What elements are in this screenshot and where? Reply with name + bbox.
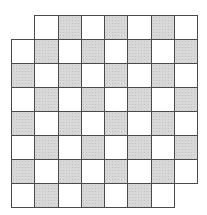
shaded-square	[104, 159, 128, 184]
white-square	[11, 39, 35, 64]
white-square	[58, 39, 82, 64]
shaded-square	[81, 39, 105, 64]
white-square	[104, 39, 128, 64]
white-square	[127, 63, 152, 88]
white-square	[174, 15, 198, 40]
white-square	[127, 111, 152, 136]
shaded-square	[104, 15, 128, 40]
shaded-square	[81, 87, 105, 112]
shaded-square	[174, 87, 198, 112]
shaded-square	[34, 183, 59, 208]
white-square	[151, 183, 175, 208]
shaded-square	[151, 159, 175, 184]
shaded-square	[127, 183, 152, 208]
white-square	[58, 183, 82, 208]
white-square	[34, 159, 59, 184]
white-square	[11, 135, 35, 160]
white-square	[104, 135, 128, 160]
white-square	[174, 63, 198, 88]
white-square	[127, 15, 152, 40]
white-square	[81, 111, 105, 136]
white-square	[81, 15, 105, 40]
shaded-square	[34, 39, 59, 64]
white-square	[174, 159, 198, 184]
white-square	[127, 159, 152, 184]
shaded-square	[151, 63, 175, 88]
shaded-square	[58, 15, 82, 40]
shaded-square	[127, 87, 152, 112]
white-square	[34, 111, 59, 136]
checkerboard-diagram	[0, 0, 207, 215]
shaded-square	[34, 87, 59, 112]
shaded-square	[81, 183, 105, 208]
shaded-square	[174, 135, 198, 160]
white-square	[151, 87, 175, 112]
shaded-square	[58, 111, 82, 136]
white-square	[104, 87, 128, 112]
white-square	[11, 183, 35, 208]
shaded-square	[11, 63, 35, 88]
shaded-square	[127, 39, 152, 64]
white-square	[151, 39, 175, 64]
white-square	[58, 87, 82, 112]
white-square	[174, 111, 198, 136]
shaded-square	[11, 159, 35, 184]
shaded-square	[174, 39, 198, 64]
shaded-square	[104, 111, 128, 136]
shaded-square	[34, 135, 59, 160]
shaded-square	[104, 63, 128, 88]
shaded-square	[151, 15, 175, 40]
shaded-square	[58, 63, 82, 88]
white-square	[81, 63, 105, 88]
shaded-square	[11, 111, 35, 136]
shaded-square	[151, 111, 175, 136]
white-square	[81, 159, 105, 184]
shaded-square	[127, 135, 152, 160]
white-square	[58, 135, 82, 160]
shaded-square	[81, 135, 105, 160]
white-square	[34, 63, 59, 88]
shaded-square	[58, 159, 82, 184]
white-square	[151, 135, 175, 160]
white-square	[11, 87, 35, 112]
white-square	[104, 183, 128, 208]
white-square	[34, 15, 59, 40]
